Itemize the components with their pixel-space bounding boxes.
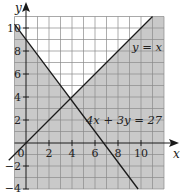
y-tick-label: 6 (14, 68, 21, 81)
x-axis-label: x (173, 147, 180, 161)
y-tick-label: 10 (7, 22, 21, 35)
x-tick-label: 2 (46, 147, 53, 160)
label-4x-plus-3y-equals-27: 4x + 3y = 27 (85, 113, 163, 127)
x-tick-label: 8 (115, 147, 122, 160)
y-tick-label: 8 (14, 45, 21, 58)
y-tick-label: −2 (5, 160, 21, 173)
y-axis-label: y (14, 1, 22, 15)
y-tick-label: 2 (14, 114, 21, 127)
x-tick-label: 0 (18, 147, 25, 160)
label-y-equals-x: y = x (131, 40, 162, 54)
x-tick-label: 10 (134, 147, 148, 160)
inequality-graph: 0 2 4 6 8 10 10 8 6 4 2 −2 −4 x y y = x … (0, 0, 181, 192)
x-tick-label: 4 (69, 147, 76, 160)
y-tick-label: −4 (5, 182, 21, 192)
y-tick-label: 4 (14, 91, 21, 104)
x-tick-label: 6 (92, 147, 99, 160)
